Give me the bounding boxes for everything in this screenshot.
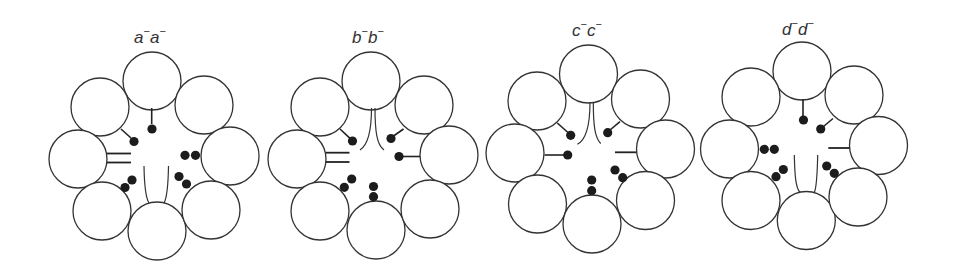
outer-circle (509, 175, 567, 233)
outer-circle (420, 126, 478, 184)
bead-dot (816, 124, 825, 133)
outer-circle (201, 127, 259, 185)
bead-dot (120, 183, 129, 192)
bead-dot (610, 165, 619, 174)
bead-dot (127, 175, 136, 184)
bead-dot (147, 124, 156, 133)
outer-circle (395, 76, 453, 134)
outer-circle (401, 180, 459, 238)
outer-circle (701, 120, 759, 178)
bead-dot (347, 174, 356, 183)
label-superscript: − (159, 25, 165, 37)
bead-dot (129, 137, 138, 146)
bead-dot (369, 182, 378, 191)
outer-circle (825, 66, 883, 124)
label-superscript: − (377, 25, 383, 37)
outer-circle (123, 52, 181, 110)
outer-circle (291, 78, 349, 136)
label-letter: a (134, 28, 143, 47)
outer-circle (128, 202, 186, 260)
outer-circle (560, 45, 618, 103)
outer-circle (182, 181, 240, 239)
bead-dot (799, 115, 808, 124)
outer-circle (508, 72, 566, 130)
bead-dot (369, 192, 378, 201)
outer-circle (486, 124, 544, 182)
outer-circle (773, 42, 831, 100)
outer-circle (850, 117, 908, 175)
outer-circle (347, 201, 405, 259)
outer-circle (175, 76, 233, 134)
outer-circle (268, 130, 326, 188)
label-letter: a (150, 28, 159, 47)
bead-dot (340, 183, 349, 192)
outer-circle (722, 68, 780, 126)
bead-dot (603, 128, 612, 137)
bead-dot (770, 145, 779, 154)
bead-dot (618, 173, 627, 182)
label-superscript: − (595, 18, 601, 30)
bead-dot (566, 131, 575, 140)
bead-dot (191, 151, 200, 160)
label-letter: b (368, 28, 377, 47)
bead-dot (779, 165, 788, 174)
bead-dot (394, 152, 403, 161)
bead-dot (771, 172, 780, 181)
figure-canvas: a−a−b−b−c−c−d−d− (0, 0, 956, 274)
outer-circle (342, 52, 400, 110)
bead-dot (563, 150, 572, 159)
bead-dot (182, 179, 191, 188)
outer-circle (71, 78, 129, 136)
outer-circle (612, 70, 670, 128)
outer-circle (722, 172, 780, 230)
outer-circle (637, 120, 695, 178)
outer-circle (49, 130, 107, 188)
bead-dot (587, 186, 596, 195)
label-superscript: − (807, 17, 813, 29)
bead-dot (587, 175, 596, 184)
outer-circle (291, 182, 349, 240)
bead-dot (760, 145, 769, 154)
bead-dot (174, 172, 183, 181)
bead-dot (180, 151, 189, 160)
outer-circle (563, 195, 621, 253)
bead-dot (830, 169, 839, 178)
bead-dot (386, 134, 395, 143)
label-letter: b (352, 28, 361, 47)
bead-dot (822, 161, 831, 170)
outer-circle (777, 192, 835, 250)
outer-circle (829, 168, 887, 226)
bead-dot (348, 136, 357, 145)
